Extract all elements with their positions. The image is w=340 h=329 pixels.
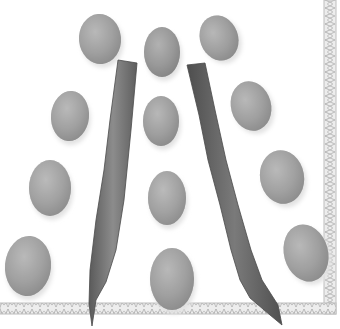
bean-photo: [0, 0, 340, 329]
